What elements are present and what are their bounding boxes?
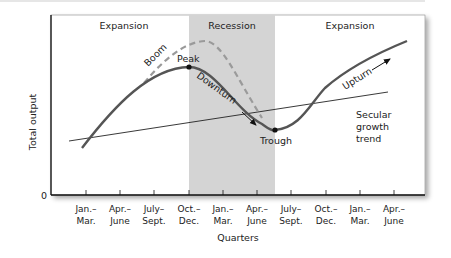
trough-label: Trough [259, 135, 292, 146]
x-axis-label: Quarters [217, 232, 259, 243]
peak-label: Peak [177, 53, 200, 64]
secular-label-1: Secular [356, 109, 392, 120]
svg-text:Apr.–: Apr.– [246, 204, 269, 214]
y-zero-label: 0 [41, 190, 47, 201]
svg-text:Jan.–: Jan.– [211, 204, 234, 214]
svg-text:Sept.: Sept. [279, 216, 302, 226]
svg-text:Apr.–: Apr.– [109, 204, 132, 214]
svg-text:Mar.: Mar. [350, 216, 369, 226]
svg-text:Dec.: Dec. [179, 216, 199, 226]
svg-text:Mar.: Mar. [76, 216, 95, 226]
svg-text:Oct.–: Oct.– [178, 204, 201, 214]
secular-label-3: trend [356, 133, 381, 144]
svg-text:Apr.–: Apr.– [383, 204, 406, 214]
svg-text:Oct.–: Oct.– [315, 204, 338, 214]
svg-text:June: June [246, 216, 267, 226]
phase-label-recession: Recession [208, 20, 255, 31]
svg-text:July–: July– [280, 204, 302, 214]
svg-text:July–: July– [143, 204, 165, 214]
peak-point [186, 64, 191, 69]
svg-text:Jan.–: Jan.– [348, 204, 371, 214]
business-cycle-chart: Expansion Recession Expansion Boom Peak … [0, 0, 451, 258]
phase-label-expansion-2: Expansion [326, 20, 375, 31]
y-axis-label: Total output [27, 93, 38, 151]
x-tick-labels: Jan.– Mar. Apr.– June July– Sept. Oct.– … [74, 204, 405, 226]
trough-point [272, 127, 277, 132]
secular-label-2: growth [356, 121, 389, 132]
svg-text:Jan.–: Jan.– [74, 204, 97, 214]
svg-text:June: June [383, 216, 404, 226]
svg-text:Dec.: Dec. [316, 216, 336, 226]
svg-text:Sept.: Sept. [142, 216, 165, 226]
svg-text:Mar.: Mar. [213, 216, 232, 226]
svg-text:June: June [109, 216, 130, 226]
phase-label-expansion: Expansion [100, 20, 149, 31]
